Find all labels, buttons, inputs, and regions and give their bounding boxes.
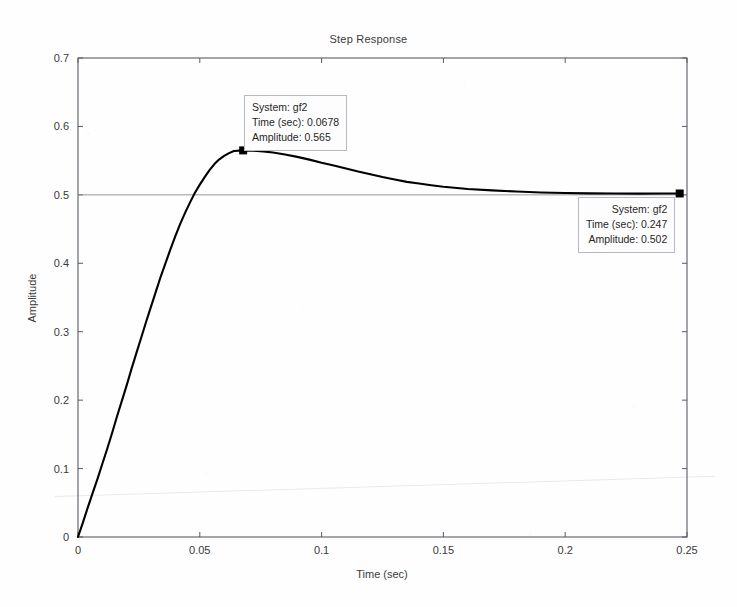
datatip-peak-system: System: gf2 xyxy=(252,100,339,115)
x-tick-labels: 00.050.10.150.20.25 xyxy=(75,544,698,556)
x-tick-label: 0.05 xyxy=(189,544,210,556)
y-tick-label: 0.4 xyxy=(54,257,69,269)
datatip-markers xyxy=(239,146,684,197)
x-tick-label: 0.25 xyxy=(676,544,697,556)
x-tick-label: 0.2 xyxy=(558,544,573,556)
y-tick-label: 0.7 xyxy=(54,52,69,64)
axes-box xyxy=(78,58,687,537)
datatip-final-system: System: gf2 xyxy=(586,202,667,217)
x-axis-label: Time (sec) xyxy=(356,568,408,580)
datatip-peak-amplitude: Amplitude: 0.565 xyxy=(252,130,339,145)
datatip-final-time: Time (sec): 0.247 xyxy=(586,217,667,232)
y-tick-label: 0.2 xyxy=(54,394,69,406)
datatip-final-amplitude: Amplitude: 0.502 xyxy=(586,232,667,247)
y-axis-label: Amplitude xyxy=(26,274,38,323)
y-tick-label: 0 xyxy=(63,531,69,543)
x-tick-label: 0 xyxy=(75,544,81,556)
datatip-peak[interactable]: System: gf2 Time (sec): 0.0678 Amplitude… xyxy=(244,95,347,151)
y-tick-label: 0.3 xyxy=(54,326,69,338)
y-tick-label: 0.6 xyxy=(54,120,69,132)
datatip-marker-final[interactable] xyxy=(676,189,684,197)
axis-ticks xyxy=(78,58,687,537)
y-tick-label: 0.1 xyxy=(54,463,69,475)
step-response-plot: 00.050.10.150.20.25 00.10.20.30.40.50.60… xyxy=(0,0,737,607)
datatip-peak-time: Time (sec): 0.0678 xyxy=(252,115,339,130)
y-tick-labels: 00.10.20.30.40.50.60.7 xyxy=(54,52,69,543)
figure-canvas: Step Response 00.050.10.150.20.25 00.10.… xyxy=(0,0,737,607)
x-tick-label: 0.15 xyxy=(433,544,454,556)
x-tick-label: 0.1 xyxy=(314,544,329,556)
y-tick-label: 0.5 xyxy=(54,189,69,201)
datatip-final[interactable]: System: gf2 Time (sec): 0.247 Amplitude:… xyxy=(578,197,675,253)
